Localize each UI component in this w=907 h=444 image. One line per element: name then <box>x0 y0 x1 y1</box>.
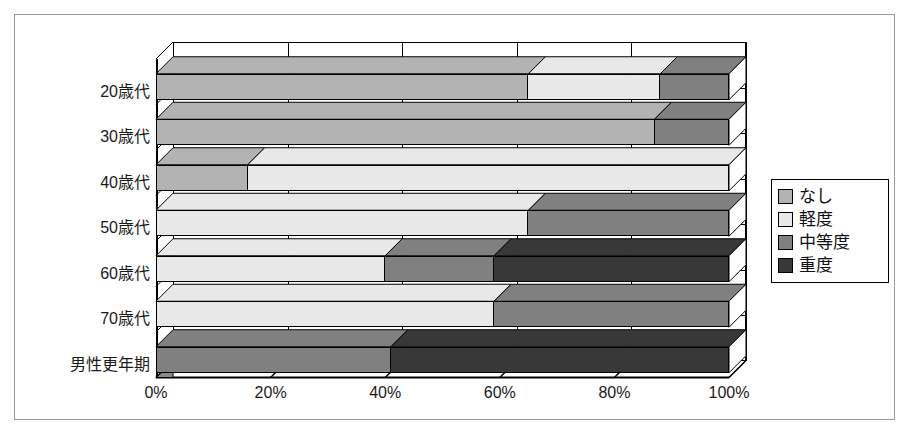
y-axis-label-4: 50歳代 <box>15 214 150 238</box>
gridline-100 <box>746 42 747 361</box>
bar-segment <box>385 256 494 282</box>
bar-segment <box>528 210 729 236</box>
bar-segment <box>655 119 729 145</box>
legend-label: なし <box>799 188 833 205</box>
bar-segment <box>156 210 528 236</box>
bar-segment <box>156 301 494 327</box>
bar-segment <box>494 256 729 282</box>
bar-segment <box>156 347 391 373</box>
y-axis-label-2: 30歳代 <box>15 123 150 147</box>
y-axis-label-7: 男性更年期 <box>15 351 150 375</box>
x-axis-tick-80%: 80% <box>584 384 644 402</box>
y-axis-label-3: 40歳代 <box>15 169 150 193</box>
chart-legend: なし軽度中等度重度 <box>771 179 889 283</box>
legend-swatch-icon <box>778 235 793 250</box>
y-axis-label-1: 20歳代 <box>15 78 150 102</box>
x-axis-tick-60%: 60% <box>470 384 530 402</box>
bar-segment <box>156 256 385 282</box>
legend-swatch-icon <box>778 189 793 204</box>
x-axis-tick-20%: 20% <box>241 384 301 402</box>
bar-segment <box>248 165 729 191</box>
bar-segment <box>660 74 729 100</box>
legend-item-1: なし <box>778 185 882 208</box>
bar-segment <box>156 119 655 145</box>
x-axis-tick-0%: 0% <box>126 384 186 402</box>
legend-label: 重度 <box>799 257 833 274</box>
bar-segment <box>528 74 660 100</box>
x-axis-tick-40%: 40% <box>355 384 415 402</box>
legend-label: 軽度 <box>799 211 833 228</box>
bar-segment <box>156 74 528 100</box>
x-axis-tick-100%: 100% <box>699 384 759 402</box>
plot-area: 20歳代30歳代40歳代50歳代60歳代70歳代男性更年期0%20%40%60%… <box>15 15 896 421</box>
y-axis-label-6: 70歳代 <box>15 305 150 329</box>
bar-segment <box>391 347 729 373</box>
bar-segment <box>156 165 248 191</box>
legend-item-4: 重度 <box>778 254 882 277</box>
y-axis-label-5: 60歳代 <box>15 260 150 284</box>
legend-item-2: 軽度 <box>778 208 882 231</box>
chart-frame: 20歳代30歳代40歳代50歳代60歳代70歳代男性更年期0%20%40%60%… <box>14 14 895 420</box>
legend-item-3: 中等度 <box>778 231 882 254</box>
legend-label: 中等度 <box>799 234 850 251</box>
bar-segment <box>494 301 729 327</box>
legend-swatch-icon <box>778 258 793 273</box>
legend-swatch-icon <box>778 212 793 227</box>
